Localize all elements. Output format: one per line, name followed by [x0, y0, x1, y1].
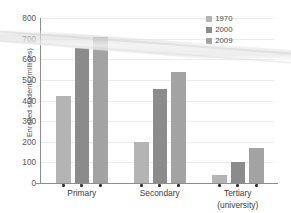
- x-axis-label: (university): [193, 200, 283, 210]
- bar-1970-primary: [56, 96, 71, 183]
- bar-chart: Enrolled students (millions) 01002003004…: [0, 0, 291, 213]
- x-tick-dot: [218, 184, 221, 187]
- legend-item: 1970: [206, 14, 233, 24]
- legend-label: 2000: [215, 26, 232, 34]
- x-tick-dot: [236, 184, 239, 187]
- y-tick-label: 600: [6, 55, 36, 64]
- x-tick-dot: [255, 184, 258, 187]
- y-axis-line: [40, 18, 41, 183]
- y-tick-label: 300: [6, 117, 36, 126]
- x-tick-dot: [158, 184, 161, 187]
- y-tick-label: 400: [6, 96, 36, 105]
- bar-2009-secondary: [171, 72, 186, 183]
- x-tick-dot: [62, 184, 65, 187]
- bar-2009-primary: [93, 37, 108, 183]
- x-tick-dot: [177, 184, 180, 187]
- x-axis-label: Tertiary: [193, 188, 283, 198]
- bar-2000-tertiary: [231, 162, 246, 183]
- y-tick-label: 800: [6, 14, 36, 23]
- legend-item: 2000: [206, 25, 233, 35]
- x-tick-dot: [140, 184, 143, 187]
- legend-item: 2009: [206, 36, 233, 46]
- gridline: [40, 39, 274, 40]
- y-axis-tick-labels: 0100200300400500600700800: [2, 18, 36, 183]
- gridline: [40, 18, 274, 19]
- legend-swatch-icon: [206, 38, 212, 44]
- y-tick-label: 700: [6, 34, 36, 43]
- bar-2009-tertiary: [249, 148, 264, 183]
- x-axis-label: Primary: [37, 188, 127, 198]
- x-tick-dot: [80, 184, 83, 187]
- bar-1970-secondary: [134, 142, 149, 183]
- x-tick-dot: [99, 184, 102, 187]
- legend-swatch-icon: [206, 27, 212, 33]
- y-tick-label: 100: [6, 158, 36, 167]
- plot-area: [40, 18, 274, 183]
- x-axis-label: Secondary: [115, 188, 205, 198]
- y-tick-label: 200: [6, 137, 36, 146]
- chart-legend: 197020002009: [206, 14, 233, 47]
- legend-label: 1970: [215, 15, 232, 23]
- legend-label: 2009: [215, 37, 232, 45]
- y-tick-label: 0: [6, 179, 36, 188]
- bar-1970-tertiary: [212, 175, 227, 183]
- y-tick-label: 500: [6, 75, 36, 84]
- legend-swatch-icon: [206, 16, 212, 22]
- x-axis-line: [36, 183, 278, 184]
- bar-2000-secondary: [153, 89, 168, 183]
- bar-2000-primary: [75, 48, 90, 183]
